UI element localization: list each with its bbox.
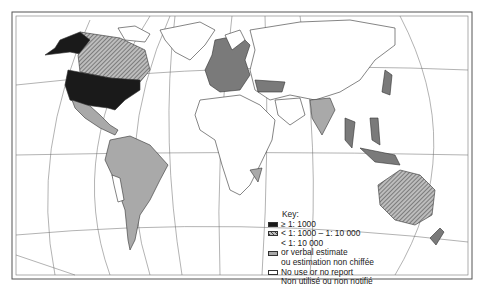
- legend-item-none-fr: Non utilisé ou non notifié: [281, 277, 374, 287]
- grey-swatch: [268, 251, 278, 256]
- legend: Key: ≥ 1: 1000 < 1: 1000 – 1: 10 000 < 1…: [268, 210, 374, 287]
- map-svg: [0, 0, 483, 291]
- world-map: Key: ≥ 1: 1000 < 1: 1000 – 1: 10 000 < 1…: [0, 0, 483, 291]
- black-swatch: [268, 222, 278, 227]
- hatched-swatch: [268, 231, 278, 236]
- white-swatch: [268, 270, 278, 275]
